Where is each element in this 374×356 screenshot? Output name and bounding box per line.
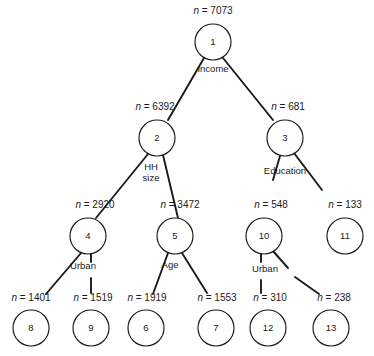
node-label-6: 6	[143, 322, 148, 333]
split-label-node-2: HHsize	[143, 161, 160, 183]
split-label-node-3: Education	[264, 165, 306, 176]
tree-node-12[interactable]: 12	[250, 310, 286, 346]
node-label-13: 13	[326, 322, 337, 333]
count-label-node-2: n = 6392	[135, 101, 175, 112]
count-label-node-7: n = 1553	[197, 292, 237, 303]
tree-node-1[interactable]: 1	[195, 24, 231, 60]
count-label-node-3: n = 681	[271, 101, 305, 112]
tree-node-11[interactable]: 11	[327, 218, 363, 254]
node-label-1: 1	[210, 36, 215, 47]
node-label-2: 2	[154, 132, 159, 143]
count-label-node-10: n = 548	[254, 199, 288, 210]
node-label-12: 12	[263, 322, 274, 333]
count-label-node-4: n = 2920	[75, 199, 115, 210]
tree-edge-10-to-13b	[295, 277, 319, 294]
node-label-5: 5	[172, 230, 177, 241]
tree-node-10[interactable]: 10	[246, 218, 282, 254]
count-label-node-9: n = 1519	[73, 292, 113, 303]
count-label-node-13: n = 238	[317, 292, 351, 303]
tree-edge-1-to-3	[223, 58, 273, 120]
classification-tree-figure: 12345101189671213 n = 7073n = 6392n = 68…	[0, 0, 374, 356]
tree-node-2[interactable]: 2	[139, 120, 175, 156]
tree-count-labels: n = 7073n = 6392n = 681n = 2920n = 3472n…	[11, 5, 362, 303]
split-label-node-10: Urban	[252, 263, 278, 274]
count-label-node-1: n = 7073	[193, 5, 233, 16]
node-label-8: 8	[28, 322, 33, 333]
tree-node-8[interactable]: 8	[13, 310, 49, 346]
tree-node-3[interactable]: 3	[267, 120, 303, 156]
count-label-node-12: n = 310	[253, 292, 287, 303]
tree-node-5[interactable]: 5	[157, 218, 193, 254]
tree-node-4[interactable]: 4	[70, 218, 106, 254]
tree-edges	[46, 58, 322, 294]
split-label-node-4: Urban	[70, 260, 96, 271]
tree-nodes: 12345101189671213	[13, 24, 363, 346]
node-label-3: 3	[282, 132, 287, 143]
tree-node-6[interactable]: 6	[128, 310, 164, 346]
count-label-node-6: n = 1919	[127, 292, 167, 303]
node-label-11: 11	[340, 230, 350, 241]
node-label-9: 9	[88, 322, 93, 333]
split-label-node-5: Age	[162, 259, 179, 270]
tree-node-9[interactable]: 9	[73, 310, 109, 346]
tree-node-7[interactable]: 7	[198, 310, 234, 346]
node-label-7: 7	[213, 322, 218, 333]
count-label-node-8: n = 1401	[11, 292, 51, 303]
tree-edge-5-to-7	[182, 253, 207, 293]
count-label-node-5: n = 3472	[160, 199, 200, 210]
node-label-10: 10	[259, 230, 270, 241]
split-label-node-1: Income	[197, 63, 228, 74]
node-label-4: 4	[85, 230, 90, 241]
count-label-node-11: n = 133	[328, 199, 362, 210]
tree-canvas: 12345101189671213 n = 7073n = 6392n = 68…	[0, 0, 374, 356]
tree-node-13[interactable]: 13	[313, 310, 349, 346]
